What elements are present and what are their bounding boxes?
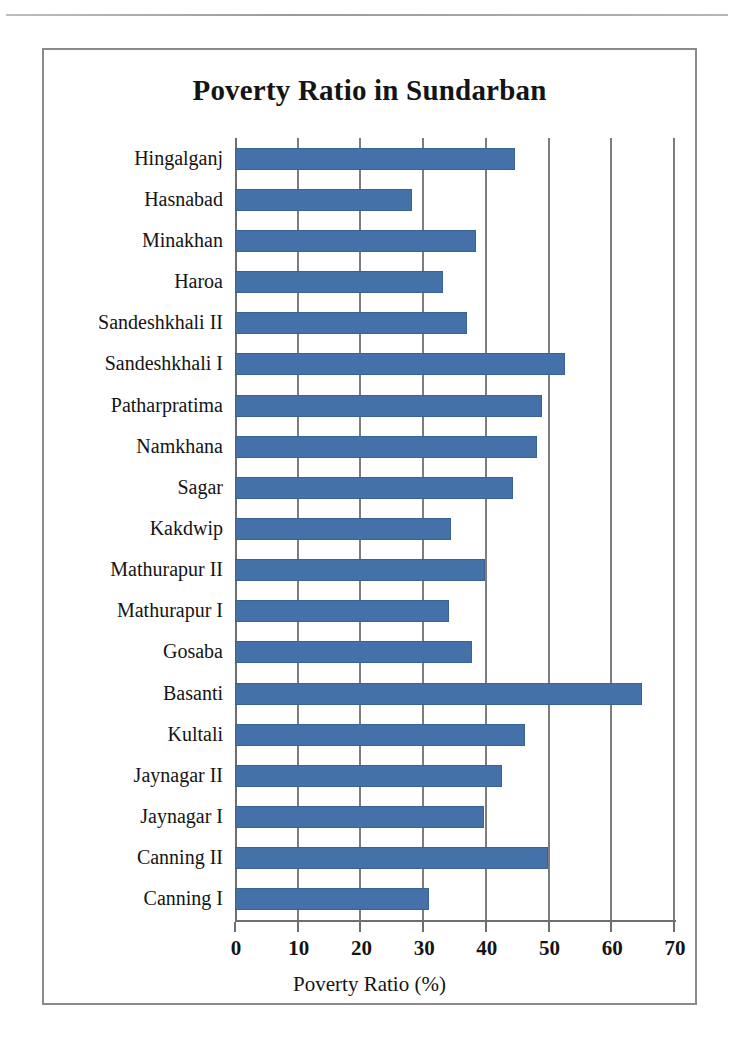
- tick-mark-10: [297, 922, 299, 932]
- category-label: Gosaba: [44, 641, 235, 661]
- figure-frame: Poverty Ratio in Sundarban HingalganjHas…: [42, 48, 697, 1005]
- bar-row[interactable]: [235, 559, 674, 581]
- x-axis-title: Poverty Ratio (%): [44, 972, 695, 997]
- bar-row[interactable]: [235, 312, 674, 334]
- category-label: Minakhan: [44, 230, 235, 250]
- category-label: Hingalganj: [44, 148, 235, 168]
- tick-mark-20: [359, 922, 361, 932]
- category-label-row: Kakdwip: [44, 518, 235, 538]
- bar-row[interactable]: [235, 806, 674, 828]
- category-label-row: Minakhan: [44, 230, 235, 250]
- tick-label-60: 60: [592, 936, 632, 961]
- category-label: Jaynagar I: [44, 806, 235, 826]
- bar[interactable]: [235, 395, 542, 417]
- bar-row[interactable]: [235, 271, 674, 293]
- bar-row[interactable]: [235, 724, 674, 746]
- bar-row[interactable]: [235, 436, 674, 458]
- category-label-row: Sandeshkhali II: [44, 312, 235, 332]
- tick-label-30: 30: [404, 936, 444, 961]
- category-label-row: Canning I: [44, 888, 235, 908]
- bar-row[interactable]: [235, 600, 674, 622]
- tick-mark-70: [673, 922, 675, 932]
- category-label: Canning I: [44, 888, 235, 908]
- bar-row[interactable]: [235, 189, 674, 211]
- category-label: Sagar: [44, 477, 235, 497]
- page-header: [0, 0, 735, 30]
- category-label: Mathurapur II: [44, 559, 235, 579]
- bar-row[interactable]: [235, 230, 674, 252]
- bar[interactable]: [235, 271, 443, 293]
- bar-row[interactable]: [235, 641, 674, 663]
- tick-mark-60: [610, 922, 612, 932]
- category-label-row: Hingalganj: [44, 148, 235, 168]
- category-label-row: Haroa: [44, 271, 235, 291]
- category-label-row: Basanti: [44, 683, 235, 703]
- bar[interactable]: [235, 436, 537, 458]
- bar[interactable]: [235, 312, 467, 334]
- bar-row[interactable]: [235, 888, 674, 910]
- bar[interactable]: [235, 847, 548, 869]
- tick-label-20: 20: [341, 936, 381, 961]
- page-header-rule: [6, 14, 728, 16]
- bar[interactable]: [235, 189, 412, 211]
- bar-row[interactable]: [235, 477, 674, 499]
- bar-row[interactable]: [235, 847, 674, 869]
- category-label-row: Jaynagar I: [44, 806, 235, 826]
- tick-mark-50: [548, 922, 550, 932]
- tick-mark-0: [234, 922, 236, 932]
- chart-title: Poverty Ratio in Sundarban: [44, 74, 695, 107]
- tick-label-70: 70: [655, 936, 695, 961]
- bar-row[interactable]: [235, 395, 674, 417]
- category-label-row: Gosaba: [44, 641, 235, 661]
- category-label-row: Jaynagar II: [44, 765, 235, 785]
- tick-label-40: 40: [467, 936, 507, 961]
- category-label-row: Hasnabad: [44, 189, 235, 209]
- category-label: Patharpratima: [44, 395, 235, 415]
- bar[interactable]: [235, 148, 515, 170]
- category-label: Kultali: [44, 724, 235, 744]
- bar[interactable]: [235, 683, 642, 705]
- category-label-row: Kultali: [44, 724, 235, 744]
- bar-row[interactable]: [235, 765, 674, 787]
- bar[interactable]: [235, 600, 449, 622]
- category-label: Jaynagar II: [44, 765, 235, 785]
- bar[interactable]: [235, 477, 513, 499]
- bar-row[interactable]: [235, 683, 674, 705]
- bar[interactable]: [235, 724, 525, 746]
- tick-mark-40: [485, 922, 487, 932]
- category-label: Basanti: [44, 683, 235, 703]
- tick-label-50: 50: [530, 936, 570, 961]
- category-label: Sandeshkhali I: [44, 353, 235, 373]
- category-label: Kakdwip: [44, 518, 235, 538]
- bar[interactable]: [235, 765, 502, 787]
- tick-label-10: 10: [279, 936, 319, 961]
- category-label: Namkhana: [44, 436, 235, 456]
- bar[interactable]: [235, 806, 484, 828]
- tick-mark-30: [422, 922, 424, 932]
- category-label: Haroa: [44, 271, 235, 291]
- bar-row[interactable]: [235, 518, 674, 540]
- tick-label-0: 0: [216, 936, 256, 961]
- category-label-row: Mathurapur I: [44, 600, 235, 620]
- bar[interactable]: [235, 230, 476, 252]
- plot-area: [235, 138, 674, 920]
- bar-row[interactable]: [235, 148, 674, 170]
- bar[interactable]: [235, 518, 451, 540]
- bar-row[interactable]: [235, 353, 674, 375]
- category-label: Mathurapur I: [44, 600, 235, 620]
- category-label-row: Mathurapur II: [44, 559, 235, 579]
- bar[interactable]: [235, 559, 485, 581]
- category-label-row: Sagar: [44, 477, 235, 497]
- bar[interactable]: [235, 641, 472, 663]
- category-label-row: Sandeshkhali I: [44, 353, 235, 373]
- category-label-row: Namkhana: [44, 436, 235, 456]
- category-label: Hasnabad: [44, 189, 235, 209]
- bar[interactable]: [235, 353, 565, 375]
- category-label: Sandeshkhali II: [44, 312, 235, 332]
- category-label: Canning II: [44, 847, 235, 867]
- category-label-row: Patharpratima: [44, 395, 235, 415]
- category-label-row: Canning II: [44, 847, 235, 867]
- bar[interactable]: [235, 888, 429, 910]
